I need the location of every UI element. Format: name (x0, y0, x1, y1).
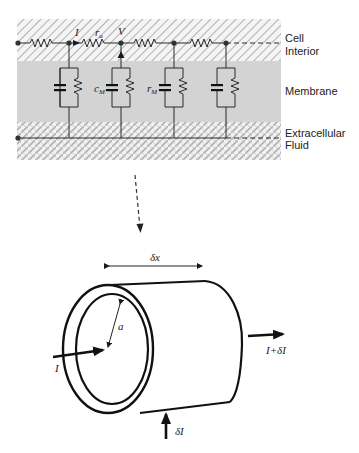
radius-label: a (118, 320, 124, 332)
capacitor-icon (159, 84, 171, 86)
extracellular-region (17, 122, 281, 160)
extracellular-label: Extracellular (285, 127, 346, 139)
capacitor-icon (106, 84, 118, 86)
zoom-connector-arrow-icon (135, 175, 144, 233)
node-icon (15, 135, 20, 140)
membrane-label: Membrane (285, 85, 338, 97)
cable-model-diagram: I ra V cM rM Cell Interior Membrane Extr… (0, 0, 359, 453)
cable-segment-cylinder (63, 281, 242, 413)
node-icon (15, 40, 20, 45)
cell-interior-label: Cell (285, 32, 304, 44)
capacitor-icon (54, 84, 66, 86)
length-dimension: δx (109, 251, 202, 266)
cell-interior-region (17, 19, 281, 61)
membrane-current-label: δI (175, 425, 185, 437)
capacitor-icon (211, 84, 223, 86)
output-current-arrow-icon (248, 334, 283, 336)
length-label: δx (150, 251, 160, 263)
extracellular-label-2: Fluid (285, 139, 309, 151)
cell-interior-label-2: Interior (285, 45, 320, 57)
input-current-label: I (54, 362, 60, 374)
circuit-panel: I ra V cM rM Cell Interior Membrane Extr… (15, 19, 345, 160)
output-current-label: I+δI (265, 344, 287, 356)
